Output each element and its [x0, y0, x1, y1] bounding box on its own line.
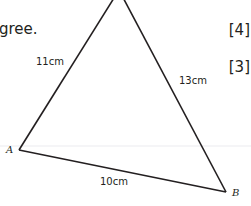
marks-label-1: [4]: [229, 23, 250, 38]
vertex-b-label: B: [232, 188, 239, 198]
side-bc-length: 13cm: [179, 76, 207, 86]
vertex-a-label: A: [6, 145, 13, 155]
question-text-fragment: gree.: [0, 22, 38, 37]
side-ab-length: 10cm: [100, 177, 128, 187]
side-bc-line: [119, 0, 226, 192]
side-ac-length: 11cm: [36, 57, 64, 67]
marks-label-2: [3]: [229, 60, 250, 75]
